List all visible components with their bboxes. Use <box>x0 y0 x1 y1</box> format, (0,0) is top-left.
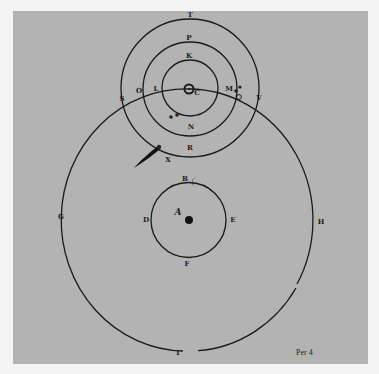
label-C: C <box>194 88 200 97</box>
label-G: G <box>58 212 64 221</box>
label-L: L <box>154 84 159 93</box>
sun-orbit-circle-arc-2 <box>198 288 296 351</box>
label-D: D <box>143 215 149 224</box>
earth-dot <box>185 216 193 224</box>
label-X: X <box>165 155 171 164</box>
label-F: F <box>185 259 190 268</box>
label-A: A <box>174 207 182 217</box>
saturn-symbol <box>237 95 242 100</box>
inner-sun-orbit <box>162 60 218 116</box>
label-M: M <box>225 84 233 93</box>
comet-icon <box>134 145 161 168</box>
planet-star-left <box>169 113 179 119</box>
planet-star-right <box>234 85 241 92</box>
label-T: T <box>187 10 193 19</box>
moon-icon <box>192 177 197 187</box>
label-R: R <box>187 143 193 152</box>
label-B: B <box>182 174 188 183</box>
label-K: K <box>186 51 193 60</box>
label-V: V <box>255 93 262 102</box>
label-O: O <box>136 86 142 95</box>
label-I: I <box>176 348 179 357</box>
tychonic-diagram: T P K C L O S M V N R X B D E F A G H I <box>0 0 379 374</box>
label-P: P <box>186 33 192 42</box>
page-caption: Per 4 <box>296 348 313 357</box>
label-E: E <box>230 215 235 224</box>
label-N: N <box>188 122 195 131</box>
label-H: H <box>318 217 325 226</box>
label-S: S <box>119 94 124 103</box>
